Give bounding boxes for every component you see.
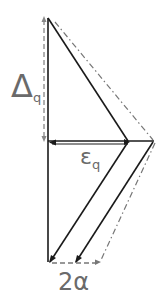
delta-q-label: Δq [11, 70, 41, 102]
epsilon-symbol: ε [80, 144, 92, 169]
upper-solid-diagonal [48, 18, 128, 141]
delta-symbol: Δ [11, 67, 33, 105]
lower-dashdot-diagonal [101, 143, 155, 260]
lower-right-arrowhead [75, 255, 82, 263]
delta-subscript: q [33, 90, 41, 105]
delta-q-arrowhead-bottom [42, 136, 47, 142]
epsilon-subscript: q [92, 157, 100, 172]
epsilon-q-label: εq [80, 146, 100, 168]
two-alpha-label: 2α [58, 270, 89, 294]
lower-left-arrowhead [49, 255, 56, 263]
delta-q-arrowhead-top [42, 16, 47, 22]
two-alpha-arrowhead [95, 260, 101, 266]
upper-dashdot-diagonal [55, 22, 153, 140]
